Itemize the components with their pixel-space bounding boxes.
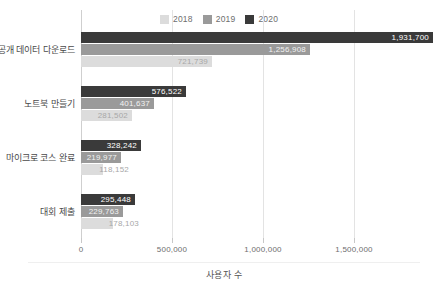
x-axis-title: 사용자 수 (0, 268, 448, 281)
bar-value-2018-0: 721,739 (178, 58, 208, 66)
x-tick-mark-1 (172, 238, 173, 243)
x-tick-label-1: 500,000 (157, 245, 187, 254)
bar-value-2019-3: 229,763 (89, 208, 119, 216)
y-axis-category-labels: 공개 데이터 다운로드 노트북 만들기 마이크로 코스 완료 대회 제출 (0, 10, 75, 238)
bar-row-2019-2: 219,977 (81, 152, 433, 163)
x-tick-mark-0 (81, 238, 82, 243)
bar-2020-0[interactable]: 1,931,700 (81, 32, 433, 43)
bar-value-2019-0: 1,256,908 (269, 46, 306, 54)
category-label-0: 공개 데이터 다운로드 (0, 46, 75, 55)
bar-2020-2[interactable]: 328,242 (81, 140, 141, 151)
bar-value-2019-1: 401,637 (120, 100, 150, 108)
bar-group-3: 295,448 229,763 178,103 (81, 194, 433, 230)
category-label-2: 마이크로 코스 완료 (6, 154, 75, 163)
category-label-1: 노트북 만들기 (24, 100, 75, 109)
bar-2020-1[interactable]: 576,522 (81, 86, 186, 97)
bar-row-2020-3: 295,448 (81, 194, 433, 205)
bar-value-2018-2: 118,152 (99, 166, 129, 174)
bar-row-2020-2: 328,242 (81, 140, 433, 151)
bar-group-0: 1,931,700 1,256,908 721,739 (81, 32, 433, 68)
bar-row-2018-0: 721,739 (81, 56, 433, 67)
bar-value-2019-2: 219,977 (87, 154, 117, 162)
bar-row-2019-1: 401,637 (81, 98, 433, 109)
plot-area: 1,931,700 1,256,908 721,739 576,522 (81, 10, 433, 238)
bar-row-2019-3: 229,763 (81, 206, 433, 217)
bar-row-2018-1: 281,502 (81, 110, 433, 121)
bar-row-2019-0: 1,256,908 (81, 44, 433, 55)
category-label-3: 대회 제출 (40, 208, 75, 217)
x-axis: 0 500,000 1,000,000 1,500,000 (81, 238, 433, 258)
bar-value-2018-1: 281,502 (98, 112, 128, 120)
bar-2019-2[interactable]: 219,977 (81, 152, 121, 163)
bar-row-2020-0: 1,931,700 (81, 32, 433, 43)
bar-2019-3[interactable]: 229,763 (81, 206, 123, 217)
bar-2020-3[interactable]: 295,448 (81, 194, 135, 205)
bar-2018-3[interactable]: 178,103 (81, 218, 113, 229)
bar-group-2: 328,242 219,977 118,152 (81, 140, 433, 176)
bar-row-2018-3: 178,103 (81, 218, 433, 229)
x-tick-mark-3 (354, 238, 355, 243)
bar-2019-1[interactable]: 401,637 (81, 98, 154, 109)
bar-chart: 2018 2019 2020 공개 데이터 다운로드 노트북 만들기 마이크로 … (0, 0, 448, 291)
bar-2018-0[interactable]: 721,739 (81, 56, 212, 67)
axis-baseline (28, 262, 420, 263)
bar-row-2018-2: 118,152 (81, 164, 433, 175)
x-tick-label-3: 1,500,000 (335, 245, 372, 254)
bar-value-2020-2: 328,242 (107, 142, 137, 150)
bar-value-2018-3: 178,103 (109, 220, 139, 228)
bar-2018-2[interactable]: 118,152 (81, 164, 103, 175)
bar-value-2020-3: 295,448 (101, 196, 131, 204)
x-tick-mark-2 (263, 238, 264, 243)
x-tick-label-0: 0 (79, 245, 84, 254)
bar-group-1: 576,522 401,637 281,502 (81, 86, 433, 122)
bar-2018-1[interactable]: 281,502 (81, 110, 132, 121)
bar-value-2020-0: 1,931,700 (392, 34, 429, 42)
bar-value-2020-1: 576,522 (152, 88, 182, 96)
bar-2019-0[interactable]: 1,256,908 (81, 44, 310, 55)
x-tick-label-2: 1,000,000 (244, 245, 281, 254)
bar-row-2020-1: 576,522 (81, 86, 433, 97)
